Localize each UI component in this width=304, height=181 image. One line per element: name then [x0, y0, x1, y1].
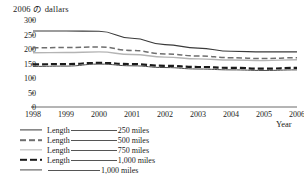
legend-series-value: 1,000 miles [101, 166, 138, 175]
x-axis-ticks: 199819992000200120022003200420052006 [0, 110, 304, 122]
chart-legend: Length250 milesLength500 milesLength750 … [18, 125, 298, 175]
legend-series-value: 250 miles [118, 126, 149, 135]
x-tick-label: 2006 [289, 110, 304, 119]
series-line [33, 31, 297, 52]
x-tick-label: 1998 [25, 110, 41, 119]
legend-line-swatch-icon [18, 155, 43, 165]
x-tick-label: 2000 [91, 110, 107, 119]
legend-line-swatch-icon [18, 145, 43, 155]
plot-lines [0, 14, 304, 110]
x-tick-label: 2004 [223, 110, 239, 119]
plot-area: 300250200150100500 [0, 14, 304, 110]
chart-container: 2006 の dallars 300250200150100500 199819… [0, 0, 304, 181]
x-tick-label: 2005 [256, 110, 272, 119]
x-tick-label: 2003 [190, 110, 206, 119]
legend-line-swatch-icon [18, 135, 43, 145]
legend-line-swatch-icon [18, 165, 43, 175]
legend-series-value: 1,000 miles [118, 156, 155, 165]
x-tick-label: 1999 [58, 110, 74, 119]
legend-item[interactable]: Length750 miles [18, 145, 298, 155]
x-tick-label: 2001 [124, 110, 140, 119]
legend-item[interactable]: Length500 miles [18, 135, 298, 145]
y-axis-title: 2006 の dallars [13, 2, 69, 14]
legend-series-value: 500 miles [118, 136, 149, 145]
legend-series-name: Length [47, 146, 70, 155]
legend-leader-rule [71, 144, 117, 151]
legend-item[interactable]: 1,000 miles [18, 165, 298, 175]
legend-series-name: Length [47, 126, 70, 135]
legend-series-value: 750 miles [118, 146, 149, 155]
legend-item[interactable]: Length250 miles [18, 125, 298, 135]
legend-leader-rule [48, 164, 100, 171]
x-tick-label: 2002 [157, 110, 173, 119]
legend-series-name: Length [47, 136, 70, 145]
legend-line-swatch-icon [18, 125, 43, 135]
legend-leader-rule [71, 134, 117, 141]
legend-label: 1,000 miles [47, 166, 138, 175]
legend-leader-rule [71, 154, 117, 161]
legend-leader-rule [71, 124, 117, 131]
